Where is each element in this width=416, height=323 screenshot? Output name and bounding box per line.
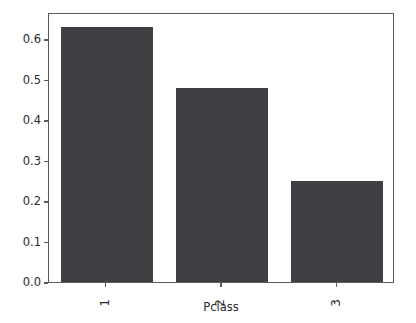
plot-area (48, 13, 394, 283)
y-tick-label: 0.3 (0, 156, 41, 168)
bar-1 (61, 27, 153, 282)
y-tick-label: 0.2 (0, 196, 41, 208)
y-tick-label: 0.0 (0, 277, 41, 289)
x-axis-label: Pclass (48, 301, 394, 315)
bar-chart-figure: 0.00.10.20.30.40.50.6 123 Pclass (0, 0, 416, 323)
y-tick-label: 0.6 (0, 34, 41, 46)
x-tick-mark (220, 283, 221, 287)
y-tick-label: 0.1 (0, 237, 41, 249)
bars-layer (49, 14, 393, 282)
bar-2 (176, 88, 268, 282)
x-tick-mark (105, 283, 106, 287)
x-tick-mark (336, 283, 337, 287)
y-tick-label: 0.4 (0, 115, 41, 127)
bar-3 (291, 181, 383, 282)
y-tick-label: 0.5 (0, 75, 41, 87)
